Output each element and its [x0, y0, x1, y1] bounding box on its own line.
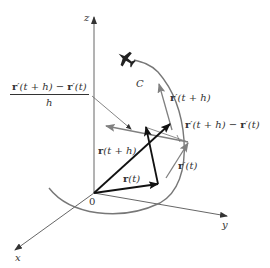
r-prime-t-label: r′(t) — [178, 161, 197, 171]
x-axis-label: x — [15, 253, 21, 263]
r-t-plus-h-label: r(t + h) — [98, 146, 136, 156]
y-axis-label: y — [222, 220, 228, 230]
y-axis — [94, 193, 227, 216]
r-t-label: r(t) — [123, 174, 140, 184]
x-axis — [15, 193, 94, 250]
r-prime-t-plus-h-label: r′(t + h) — [170, 93, 211, 103]
vector-diagram — [0, 0, 270, 268]
z-axis-label: z — [84, 13, 89, 23]
origin-label: 0 — [89, 197, 95, 207]
airplane-icon — [114, 47, 138, 70]
curve-label: C — [136, 79, 144, 89]
difference-label: r′(t + h) − r′(t) — [185, 120, 260, 130]
fraction-leader-line — [92, 96, 131, 129]
r-prime-t-plus-h-vector — [159, 84, 172, 130]
difference-quotient-label: r′(t + h) − r′(t) h — [10, 82, 89, 108]
axes — [15, 17, 227, 250]
